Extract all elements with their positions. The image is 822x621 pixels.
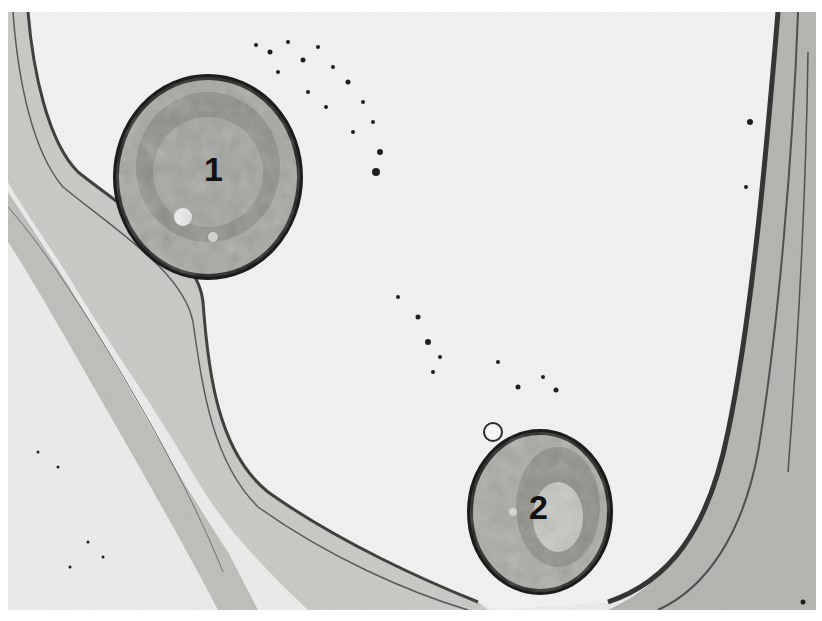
micrograph: 1 2 [8, 12, 816, 610]
cell-label-2: 2 [529, 490, 548, 524]
film-grain [8, 12, 816, 610]
micrograph-drawing [8, 12, 816, 610]
cell-label-1: 1 [204, 152, 223, 186]
